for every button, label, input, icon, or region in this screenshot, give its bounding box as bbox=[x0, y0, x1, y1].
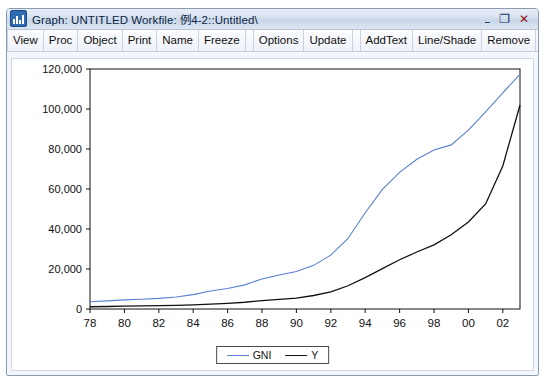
svg-text:84: 84 bbox=[187, 317, 200, 329]
svg-text:80: 80 bbox=[118, 317, 131, 329]
legend-entry-y: Y bbox=[285, 349, 318, 361]
svg-text:20,000: 20,000 bbox=[48, 263, 82, 275]
toolbar-item-options[interactable]: Options bbox=[254, 30, 305, 51]
svg-text:98: 98 bbox=[428, 317, 441, 329]
close-button[interactable]: ✕ bbox=[519, 14, 529, 24]
window-title: Graph: UNTITLED Workfile: 例4-2::Untitled… bbox=[32, 11, 258, 27]
svg-text:82: 82 bbox=[152, 317, 165, 329]
svg-text:40,000: 40,000 bbox=[48, 223, 82, 235]
legend-label-gni: GNI bbox=[253, 349, 272, 361]
legend-entry-gni: GNI bbox=[227, 349, 272, 361]
svg-text:00: 00 bbox=[462, 317, 475, 329]
window-controls: – ❐ ✕ bbox=[484, 14, 535, 24]
toolbar-item-print[interactable]: Print bbox=[123, 30, 158, 51]
toolbar-item-object[interactable]: Object bbox=[78, 30, 122, 51]
svg-text:92: 92 bbox=[324, 317, 337, 329]
svg-text:0: 0 bbox=[76, 303, 82, 315]
chart-legend: GNI Y bbox=[216, 346, 330, 364]
y-axis-tick-labels: 020,00040,00060,00080,000100,000120,000 bbox=[42, 63, 90, 315]
svg-text:78: 78 bbox=[84, 317, 97, 329]
x-axis-tick-labels: 78808284868890929496980002 bbox=[84, 309, 510, 329]
svg-text:60,000: 60,000 bbox=[48, 183, 82, 195]
toolbar-item-remove[interactable]: Remove bbox=[482, 30, 536, 51]
svg-text:94: 94 bbox=[359, 317, 372, 329]
toolbar-item-proc[interactable]: Proc bbox=[44, 30, 79, 51]
legend-swatch-gni bbox=[227, 355, 249, 356]
toolbar-separator-2 bbox=[353, 30, 361, 51]
svg-text:120,000: 120,000 bbox=[42, 63, 82, 75]
toolbar-item-addtext[interactable]: AddText bbox=[361, 30, 414, 51]
line-chart: 020,00040,00060,00080,000100,000120,000 … bbox=[12, 59, 533, 370]
window-title-bar: Graph: UNTITLED Workfile: 例4-2::Untitled… bbox=[7, 9, 538, 30]
minimize-button[interactable]: – bbox=[484, 17, 490, 27]
svg-text:100,000: 100,000 bbox=[42, 103, 82, 115]
maximize-button[interactable]: ❐ bbox=[499, 14, 510, 24]
svg-text:02: 02 bbox=[496, 317, 509, 329]
toolbar-item-freeze[interactable]: Freeze bbox=[199, 30, 246, 51]
graph-window: Graph: UNTITLED Workfile: 例4-2::Untitled… bbox=[6, 8, 539, 376]
legend-label-y: Y bbox=[311, 349, 318, 361]
svg-text:86: 86 bbox=[221, 317, 234, 329]
toolbar-item-name[interactable]: Name bbox=[157, 30, 199, 51]
svg-text:80,000: 80,000 bbox=[48, 143, 82, 155]
toolbar-item-view[interactable]: View bbox=[7, 30, 44, 51]
graph-toolbar: View Proc Object Print Name Freeze Optio… bbox=[7, 30, 538, 52]
chart-series bbox=[90, 74, 520, 306]
svg-text:88: 88 bbox=[256, 317, 269, 329]
chart-canvas[interactable]: 020,00040,00060,00080,000100,000120,000 … bbox=[11, 58, 534, 371]
svg-text:90: 90 bbox=[290, 317, 303, 329]
chart-bars-icon bbox=[10, 10, 27, 27]
chart-axes bbox=[90, 69, 520, 309]
toolbar-item-update[interactable]: Update bbox=[304, 30, 352, 51]
svg-text:96: 96 bbox=[393, 317, 406, 329]
toolbar-item-line-shade[interactable]: Line/Shade bbox=[413, 30, 482, 51]
legend-swatch-y bbox=[285, 355, 307, 356]
toolbar-separator bbox=[246, 30, 254, 51]
